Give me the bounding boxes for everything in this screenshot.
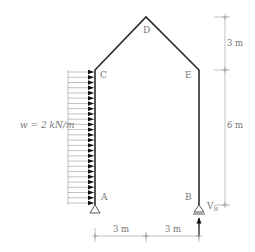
- vertical-dimension: 3 m 6 m: [214, 17, 243, 205]
- frame-members: [95, 17, 199, 205]
- horizontal-dimension: 3 m 3 m: [95, 224, 199, 242]
- dim-vertical-bottom: 6 m: [227, 120, 243, 130]
- reaction-label: VB: [206, 201, 219, 212]
- reaction-label-sub: B: [214, 205, 219, 212]
- node-label-b: B: [185, 192, 192, 202]
- load-arrows: [68, 70, 94, 205]
- dim-vertical-top: 3 m: [227, 38, 243, 48]
- load-label: w = 2 kN/m: [20, 120, 74, 130]
- pin-support-icon: [90, 205, 100, 213]
- dim-horizontal-right: 3 m: [165, 224, 181, 234]
- dim-horizontal-left: 3 m: [113, 224, 129, 234]
- node-label-d: D: [143, 25, 150, 35]
- roller-support-icon: [193, 205, 205, 214]
- node-label-c: C: [100, 70, 107, 80]
- node-label-e: E: [185, 70, 192, 80]
- frame-diagram: D C E A B w = 2 kN/m VB 3 m 6 m 3 m 3 m: [0, 0, 255, 252]
- frame-polyline: [95, 17, 199, 205]
- distributed-load: [68, 70, 94, 205]
- node-label-a: A: [100, 192, 108, 202]
